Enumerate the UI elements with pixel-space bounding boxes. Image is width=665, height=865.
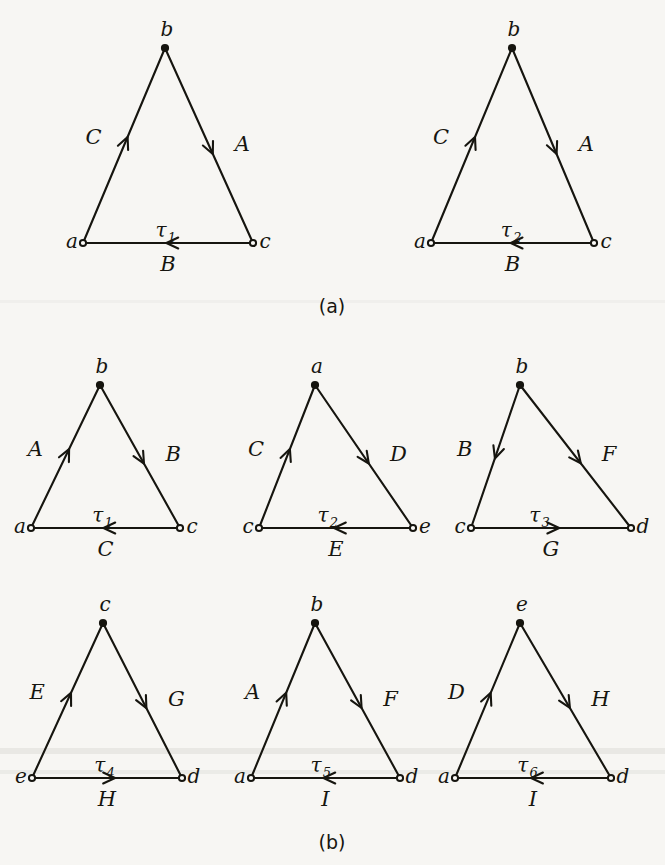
triangle-τ2: aceτ2CDE: [242, 354, 431, 561]
panel-b: bacτ1ABCaceτ2CDEbcdτ3BFGcedτ4EGHbadτ5AFI…: [14, 354, 649, 853]
vertex-label-a: a: [66, 229, 78, 253]
vertex-c: [256, 525, 262, 531]
vertex-a: [312, 382, 318, 388]
vertex-d: [179, 775, 185, 781]
vertex-label-d: d: [188, 764, 201, 788]
vertex-label-b: b: [161, 17, 174, 41]
vertex-label-d: d: [406, 764, 419, 788]
vertex-label-d: d: [617, 764, 630, 788]
vertex-label-b: b: [96, 354, 109, 378]
vertex-c: [177, 525, 183, 531]
edge-label-E: E: [327, 537, 343, 561]
vertex-label-a: a: [311, 354, 323, 378]
vertex-b: [312, 620, 318, 626]
triangle-τ5: badτ5AFI: [234, 592, 418, 811]
edge-left: [251, 623, 315, 778]
edge-label-B: B: [504, 252, 520, 276]
edge-label-D: D: [447, 680, 465, 704]
triangle-τ1: bacτ1ABC: [14, 354, 198, 561]
vertex-label-b: b: [516, 354, 529, 378]
vertex-label-a: a: [234, 764, 246, 788]
edge-label-B: B: [159, 252, 175, 276]
face-label: τ: [529, 503, 541, 527]
edge-label-C: C: [86, 125, 102, 149]
edge-label-G: G: [543, 537, 560, 561]
vertex-b: [509, 45, 515, 51]
vertex-label-e: e: [516, 592, 528, 616]
vertex-label-b: b: [311, 592, 324, 616]
panel-caption: (b): [319, 831, 346, 853]
vertex-b: [162, 45, 168, 51]
vertex-a: [80, 240, 86, 246]
face-label: τ: [310, 753, 322, 777]
edge-label-G: G: [168, 687, 185, 711]
edge-label-F: F: [382, 687, 399, 711]
vertex-label-c: c: [259, 229, 270, 253]
edge-left: [259, 385, 315, 528]
edge-label-A: A: [577, 132, 594, 156]
vertex-a: [452, 775, 458, 781]
face-label: τ: [317, 503, 329, 527]
vertex-label-c: c: [454, 514, 465, 538]
vertex-label-c: c: [99, 592, 110, 616]
edge-label-A: A: [26, 437, 43, 461]
vertex-c: [591, 240, 597, 246]
vertex-label-d: d: [637, 514, 650, 538]
vertex-b: [97, 382, 103, 388]
vertex-e: [410, 525, 416, 531]
vertex-a: [28, 525, 34, 531]
triangle-τ2: bacτ2CAB: [414, 17, 612, 276]
vertex-a: [428, 240, 434, 246]
vertex-d: [397, 775, 403, 781]
vertex-label-a: a: [438, 764, 450, 788]
figure-container: bacτ1CABbacτ2CAB(a)bacτ1ABCaceτ2CDEbcdτ3…: [0, 0, 665, 865]
vertex-label-b: b: [508, 17, 521, 41]
vertex-label-e: e: [419, 514, 431, 538]
vertex-b: [517, 382, 523, 388]
vertex-c: [100, 620, 106, 626]
vertex-label-a: a: [414, 229, 426, 253]
vertex-label-c: c: [186, 514, 197, 538]
triangle-τ3: bcdτ3BFG: [454, 354, 649, 561]
edge-label-E: E: [29, 680, 45, 704]
vertex-e: [29, 775, 35, 781]
vertex-label-a: a: [14, 514, 26, 538]
edge-label-D: D: [389, 442, 407, 466]
edge-label-I: I: [320, 787, 330, 811]
edge-label-B: B: [165, 442, 181, 466]
edge-label-C: C: [248, 437, 264, 461]
vertex-c: [250, 240, 256, 246]
panel-a: bacτ1CABbacτ2CAB(a): [66, 17, 612, 317]
face-label: τ: [92, 503, 104, 527]
edge-label-F: F: [601, 442, 618, 466]
edge-label-B: B: [456, 437, 472, 461]
triangle-τ4: cedτ4EGH: [15, 592, 200, 811]
vertex-c: [468, 525, 474, 531]
edge-label-I: I: [528, 787, 538, 811]
face-label: τ: [155, 218, 167, 242]
triangle-τ6: eadτ6DHI: [438, 592, 629, 811]
edge-label-H: H: [97, 787, 117, 811]
panel-caption: (a): [319, 295, 345, 317]
vertex-e: [517, 620, 523, 626]
vertex-d: [608, 775, 614, 781]
figure-svg: bacτ1CABbacτ2CAB(a)bacτ1ABCaceτ2CDEbcdτ3…: [0, 0, 665, 865]
edge-label-A: A: [243, 680, 260, 704]
edge-label-H: H: [590, 687, 610, 711]
vertex-label-e: e: [15, 764, 27, 788]
vertex-label-c: c: [242, 514, 253, 538]
edge-label-C: C: [97, 537, 113, 561]
triangle-τ1: bacτ1CAB: [66, 17, 271, 276]
vertex-label-c: c: [600, 229, 611, 253]
edge-label-A: A: [233, 132, 250, 156]
face-label: τ: [517, 753, 529, 777]
vertex-a: [248, 775, 254, 781]
edge-label-C: C: [433, 125, 449, 149]
face-label: τ: [501, 218, 513, 242]
vertex-d: [628, 525, 634, 531]
